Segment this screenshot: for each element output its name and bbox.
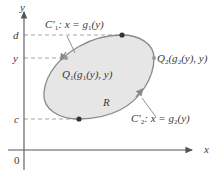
c1-leader-line bbox=[67, 36, 75, 53]
y-axis-label: y bbox=[20, 2, 25, 13]
region-r-label: R bbox=[103, 97, 110, 108]
tick-label-c: c bbox=[14, 114, 19, 125]
point-q2-label: Q2(g2(y), y) bbox=[157, 53, 207, 66]
curve-c2-label: C′2: x = g2(y) bbox=[131, 113, 190, 126]
x-axis-label: x bbox=[204, 144, 209, 155]
origin-label: 0 bbox=[14, 155, 20, 166]
point-q2 bbox=[152, 56, 156, 60]
diagram-canvas bbox=[0, 0, 219, 173]
curve-c1-label: C′1: x = g1(y) bbox=[45, 19, 104, 32]
point-q1 bbox=[64, 56, 68, 60]
top-point-d bbox=[119, 32, 124, 37]
tick-label-y: y bbox=[13, 53, 18, 64]
green-theorem-region-diagram: y x 0 d y c C′1: x = g1(y) Q1(g1(y), y) … bbox=[0, 0, 219, 173]
bottom-point-c bbox=[76, 116, 81, 121]
point-q1-label: Q1(g1(y), y) bbox=[62, 69, 112, 82]
tick-label-d: d bbox=[13, 30, 19, 41]
